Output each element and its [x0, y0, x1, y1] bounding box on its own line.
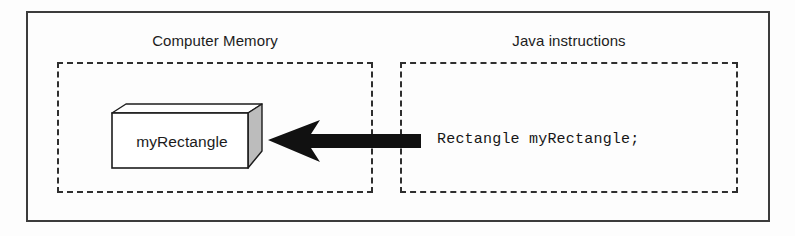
diagram-canvas: Computer Memory Java instructions myRect… — [0, 0, 795, 236]
variable-name-label: myRectangle — [114, 114, 250, 170]
arrow-left-icon — [264, 118, 426, 164]
java-instructions-caption: Java instructions — [400, 32, 738, 50]
variable-memory-box: myRectangle — [108, 98, 272, 174]
java-code-statement: Rectangle myRectangle; — [437, 130, 639, 150]
computer-memory-caption: Computer Memory — [57, 32, 373, 50]
box-top-face — [112, 104, 262, 113]
java-instructions-panel — [400, 62, 738, 193]
assignment-arrow — [264, 118, 426, 164]
arrow-shape — [268, 120, 421, 162]
box-side-face — [248, 104, 262, 168]
